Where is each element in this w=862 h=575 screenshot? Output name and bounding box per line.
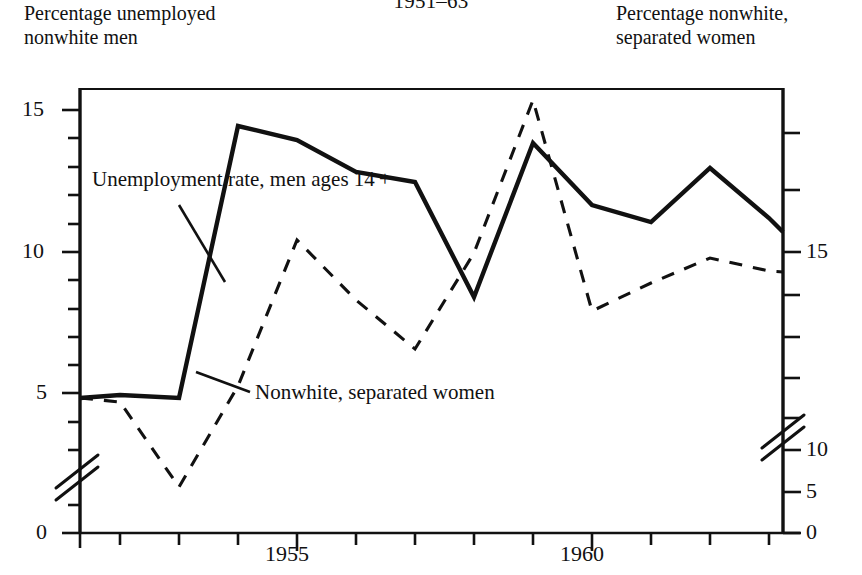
right-axis-ticks bbox=[783, 133, 801, 533]
annotation-unemployment-rate: Unemployment rate, men ages 14 + bbox=[92, 167, 391, 192]
plot-area bbox=[0, 0, 862, 575]
right-axis-label-15: 15 bbox=[806, 238, 828, 264]
x-axis-label-1960: 1960 bbox=[560, 541, 604, 567]
right-axis-label-0: 0 bbox=[806, 519, 817, 545]
right-axis-label-10: 10 bbox=[806, 436, 828, 462]
left-axis-label-5: 5 bbox=[36, 379, 47, 405]
left-axis-label-0: 0 bbox=[36, 519, 47, 545]
figure: 1951–63 Percentage unemployed nonwhite m… bbox=[0, 0, 862, 575]
right-axis-label-5: 5 bbox=[806, 478, 817, 504]
x-axis-label-1955: 1955 bbox=[265, 541, 309, 567]
left-axis-label-10: 10 bbox=[22, 238, 44, 264]
series-line-nonwhite-separated-women bbox=[80, 100, 783, 487]
annotation-nonwhite-separated-women: Nonwhite, separated women bbox=[255, 380, 495, 405]
x-axis-ticks bbox=[80, 533, 769, 551]
left-axis-label-15: 15 bbox=[22, 96, 44, 122]
left-axis-break-mark bbox=[56, 455, 98, 500]
